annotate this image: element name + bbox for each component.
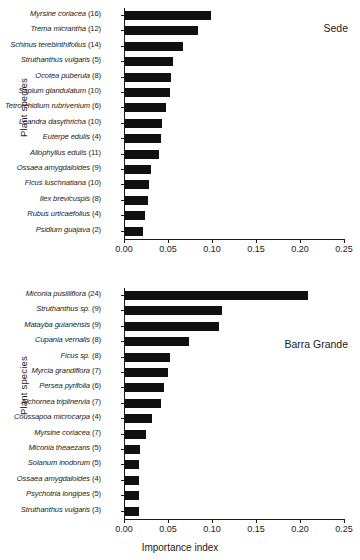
bar-row: Ilex brevicuspis (8) (124, 193, 344, 208)
category-label: Ocotea puberula (8) (35, 71, 101, 80)
y-axis-tick (121, 480, 124, 481)
category-label: Ficus luschnatiana (10) (25, 178, 101, 187)
y-axis-tick (121, 418, 124, 419)
category-label: Myrsine coriacea (7) (34, 428, 101, 437)
category-label: Rubus urticaefolius (4) (27, 209, 101, 218)
y-axis-tick (121, 215, 124, 216)
x-axis-tick (212, 519, 213, 523)
bar-row: Sapium glandulatum (10) (124, 85, 344, 100)
category-label: Coussapoa microcarpa (4) (14, 412, 101, 421)
category-label: Miconia theaezans (5) (28, 443, 101, 452)
bar (125, 291, 308, 300)
bar (125, 353, 170, 362)
bar-row: Trema micrantha (12) (124, 23, 344, 38)
x-axis-tick-label: 0.05 (148, 524, 188, 534)
y-axis-tick (121, 123, 124, 124)
category-label: Allophyllus edulis (11) (30, 148, 101, 157)
bar-row: Tetrorchidium rubrivenium (6) (124, 100, 344, 115)
x-axis-tick-label: 0.00 (104, 244, 144, 254)
bar (125, 103, 166, 112)
y-axis-tick (121, 295, 124, 296)
category-label: Struthanthus vulgaris (3) (21, 505, 101, 514)
bar (125, 150, 159, 159)
y-axis-tick (121, 449, 124, 450)
x-axis-line-bottom (124, 519, 345, 520)
x-axis-line-top (124, 239, 345, 240)
y-axis-tick (121, 154, 124, 155)
category-label: Euterpe edulis (4) (43, 132, 101, 141)
bar-row: Ficus luschnatiana (10) (124, 177, 344, 192)
bar-row: Psidium guajava (2) (124, 224, 344, 239)
bar (125, 11, 211, 20)
category-label: Solanum inodorum (5) (28, 458, 101, 467)
bar-row: Myrsine coriacea (16) (124, 8, 344, 23)
y-axis-tick (121, 169, 124, 170)
bar-row: Myrsine coriacea (7) (124, 427, 344, 442)
chart-panel-sede: Plant species Sede Myrsine coriacea (16)… (0, 0, 360, 275)
bar-row: Miconia theaezans (5) (124, 442, 344, 457)
x-axis-tick-label: 0.15 (236, 524, 276, 534)
category-label: Leandra dasythricha (10) (19, 117, 101, 126)
y-axis-title-bottom: Plant species (18, 331, 29, 441)
y-axis-tick (121, 107, 124, 108)
y-axis-tick (121, 77, 124, 78)
bar (125, 476, 139, 485)
category-label: Myrcia grandiflora (7) (31, 366, 101, 375)
category-label: Ossaea amygdaloides (4) (17, 474, 101, 483)
y-axis-tick (121, 15, 124, 16)
y-axis-tick (121, 372, 124, 373)
category-label: Struthanthus sp. (9) (36, 304, 101, 313)
bar (125, 491, 139, 500)
x-axis-tick (256, 239, 257, 243)
bar-row: Myrcia grandiflora (7) (124, 365, 344, 380)
bar-row: Psychotria longipes (5) (124, 488, 344, 503)
bar (125, 180, 149, 189)
bar-row: Miconia pusilliflora (24) (124, 288, 344, 303)
figure-bar-charts-importance-index: Plant species Sede Myrsine coriacea (16)… (0, 0, 360, 560)
bar (125, 368, 168, 377)
plot-area-sede: Myrsine coriacea (16)Trema micrantha (12… (124, 8, 344, 239)
bar-row: Euterpe edulis (4) (124, 131, 344, 146)
bar (125, 383, 164, 392)
y-axis-tick (121, 310, 124, 311)
category-label: Matayba guianensis (9) (24, 320, 101, 329)
bar (125, 414, 152, 423)
y-axis-tick (121, 30, 124, 31)
y-axis-tick (121, 92, 124, 93)
x-axis-tick-label: 0.15 (236, 244, 276, 254)
y-axis-tick (121, 231, 124, 232)
x-axis-tick (212, 239, 213, 243)
y-axis-tick (121, 200, 124, 201)
bar (125, 399, 161, 408)
x-axis-tick (300, 519, 301, 523)
bar (125, 460, 139, 469)
bar-row: Struthanthus sp. (9) (124, 303, 344, 318)
category-label: Ossaea amygdaloides (9) (17, 163, 101, 172)
x-axis-tick (300, 239, 301, 243)
bar (125, 445, 140, 454)
x-axis-tick-label: 0.20 (280, 244, 320, 254)
bar (125, 337, 189, 346)
bar (125, 227, 143, 236)
category-label: Alchornea triplinervia (7) (21, 397, 101, 406)
y-axis-tick (121, 326, 124, 327)
y-axis-tick (121, 61, 124, 62)
bar (125, 119, 162, 128)
bar (125, 322, 219, 331)
category-label: Ficus sp. (8) (61, 351, 101, 360)
category-label: Persea pyrifolia (6) (39, 381, 101, 390)
bar-row: Allophyllus edulis (11) (124, 147, 344, 162)
bar-row: Struthanthus vulgaris (3) (124, 504, 344, 519)
category-label: Tetrorchidium rubrivenium (6) (5, 101, 101, 110)
y-axis-tick (121, 387, 124, 388)
y-axis-tick (121, 511, 124, 512)
category-label: Schinus terebinthifolius (14) (10, 40, 101, 49)
category-label: Cupania vernalis (8) (35, 335, 101, 344)
bar (125, 196, 148, 205)
bar (125, 26, 198, 35)
x-axis-tick (344, 519, 345, 523)
x-axis-title: Importance index (0, 542, 360, 553)
x-axis-tick-label: 0.10 (192, 524, 232, 534)
plot-area-barra-grande: Miconia pusilliflora (24)Struthanthus sp… (124, 288, 344, 519)
bar-row: Persea pyrifolia (6) (124, 380, 344, 395)
